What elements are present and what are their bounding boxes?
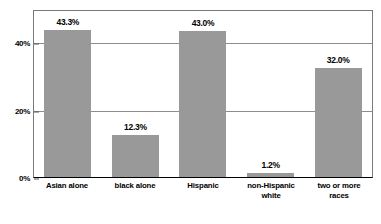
x-axis-label-line1: two or more [318, 181, 361, 190]
x-axis-label-line2: races [305, 191, 373, 201]
bar-slot: 32.0% [304, 10, 372, 177]
bar-value-label: 1.2% [261, 160, 279, 170]
bar-chart: 40% 20% 0% 43.3%12.3%43.0%1.2%32.0% Asia… [0, 0, 381, 224]
y-axis-tick-20: 20% [15, 107, 34, 116]
y-axis-tick-40-label: 40% [15, 39, 30, 48]
bar-value-label: 43.3% [56, 17, 79, 27]
bar[interactable]: 43.3% [44, 30, 91, 177]
x-axis-label: non-Hispanicwhite [237, 181, 305, 201]
bar[interactable]: 32.0% [315, 68, 362, 177]
bar[interactable]: 12.3% [112, 135, 159, 177]
y-axis-tick-20-label: 20% [15, 107, 30, 116]
bar-slot: 1.2% [237, 10, 305, 177]
bar-value-label: 12.3% [124, 122, 147, 132]
x-axis-label: black alone [101, 181, 169, 201]
x-axis-label-line2: white [237, 191, 305, 201]
bar[interactable]: 1.2% [247, 173, 294, 177]
bar-slot: 43.3% [34, 10, 102, 177]
x-axis-label: Asian alone [33, 181, 101, 201]
x-axis-label-line1: black alone [115, 181, 156, 190]
bar-slot: 43.0% [169, 10, 237, 177]
bar-slot: 12.3% [102, 10, 170, 177]
x-axis-labels: Asian aloneblack aloneHispanicnon-Hispan… [33, 181, 373, 201]
x-axis-label-line1: Asian alone [46, 181, 88, 190]
plot-area: 40% 20% 0% 43.3%12.3%43.0%1.2%32.0% [33, 10, 373, 178]
y-axis-tick-40: 40% [15, 39, 34, 48]
y-axis-tick-0-mark [34, 178, 39, 179]
x-axis-label-line1: non-Hispanic [247, 181, 295, 190]
y-axis-tick-0-label: 0% [19, 174, 30, 183]
bar-value-label: 43.0% [192, 18, 215, 28]
bar-value-label: 32.0% [327, 55, 350, 65]
bar[interactable]: 43.0% [179, 31, 226, 177]
x-axis-label: Hispanic [169, 181, 237, 201]
bars-container: 43.3%12.3%43.0%1.2%32.0% [34, 10, 372, 177]
x-axis-label-line1: Hispanic [187, 181, 218, 190]
y-axis-tick-0: 0% [19, 174, 34, 183]
x-axis-label: two or moreraces [305, 181, 373, 201]
